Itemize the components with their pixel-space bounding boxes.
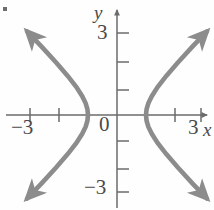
left-branch-lower	[27, 115, 88, 199]
y-tick-label-minus3: −3	[84, 177, 106, 198]
x-axis-label: x	[203, 120, 211, 139]
y-tick-label-3: 3	[97, 22, 108, 43]
origin-label: 0	[99, 114, 110, 135]
x-tick-label-3: 3	[188, 117, 199, 138]
y-axis	[117, 10, 129, 208]
hyperbola-graph-figure: y x 3 −3 0 −3 3	[0, 0, 214, 210]
x-tick-label-minus3: −3	[11, 117, 33, 138]
right-branch-upper	[146, 31, 207, 115]
y-axis-ticks	[117, 33, 129, 192]
left-branch-upper	[27, 31, 88, 115]
